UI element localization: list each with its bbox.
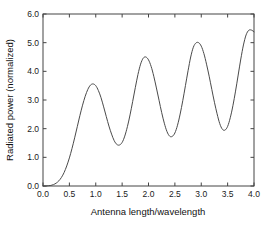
y-tick-label: 6.0 <box>27 9 39 19</box>
x-tick-label: 1.5 <box>116 189 128 199</box>
x-tick-label: 2.5 <box>169 189 181 199</box>
x-axis-title: Antenna length/wavelength <box>91 206 206 217</box>
y-tick-label: 1.0 <box>27 152 39 162</box>
x-tick-label: 0.5 <box>63 189 75 199</box>
chart-page: 0.00.51.01.52.02.53.03.54.0 0.01.02.03.0… <box>0 0 273 231</box>
y-tick-label: 3.0 <box>27 95 39 105</box>
y-tick-label: 2.0 <box>27 124 39 134</box>
x-tick-label: 1.0 <box>90 189 102 199</box>
y-tick-label: 0.0 <box>27 181 39 191</box>
x-tick-label: 3.0 <box>195 189 207 199</box>
y-tick-label: 5.0 <box>27 38 39 48</box>
y-tick-label: 4.0 <box>27 66 39 76</box>
x-tick-label: 4.0 <box>248 189 260 199</box>
x-tick-label: 2.0 <box>143 189 155 199</box>
radiated-power-chart: 0.00.51.01.52.02.53.03.54.0 0.01.02.03.0… <box>0 0 273 231</box>
y-axis-title: Radiated power (normalized) <box>4 39 15 161</box>
x-tick-label: 3.5 <box>222 189 234 199</box>
